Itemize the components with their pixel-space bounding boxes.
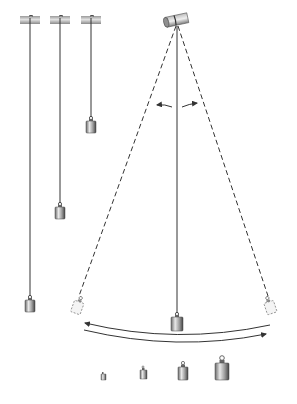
long-pendulum <box>20 16 40 313</box>
weight-4 <box>215 356 229 380</box>
weight <box>55 207 65 219</box>
weight-2 <box>140 366 147 379</box>
right-angle-arrow <box>182 103 197 107</box>
left-extreme-path <box>79 26 176 296</box>
weight-1 <box>101 372 106 380</box>
weight <box>25 300 35 312</box>
rest-weight <box>171 317 183 331</box>
pivot-cylinder <box>163 13 189 28</box>
left-ghost-weight <box>71 295 86 315</box>
weight-3 <box>178 361 188 380</box>
swinging-pendulum <box>71 13 278 342</box>
amplitude-arrow-lower <box>84 330 266 342</box>
left-angle-arrow <box>157 105 172 107</box>
pendulum-diagram <box>0 0 297 404</box>
weights-row <box>101 356 229 380</box>
right-extreme-path <box>178 26 268 296</box>
short-pendulum <box>81 16 101 134</box>
medium-pendulum <box>50 16 70 220</box>
weight <box>86 121 96 133</box>
right-ghost-weight <box>262 295 277 315</box>
